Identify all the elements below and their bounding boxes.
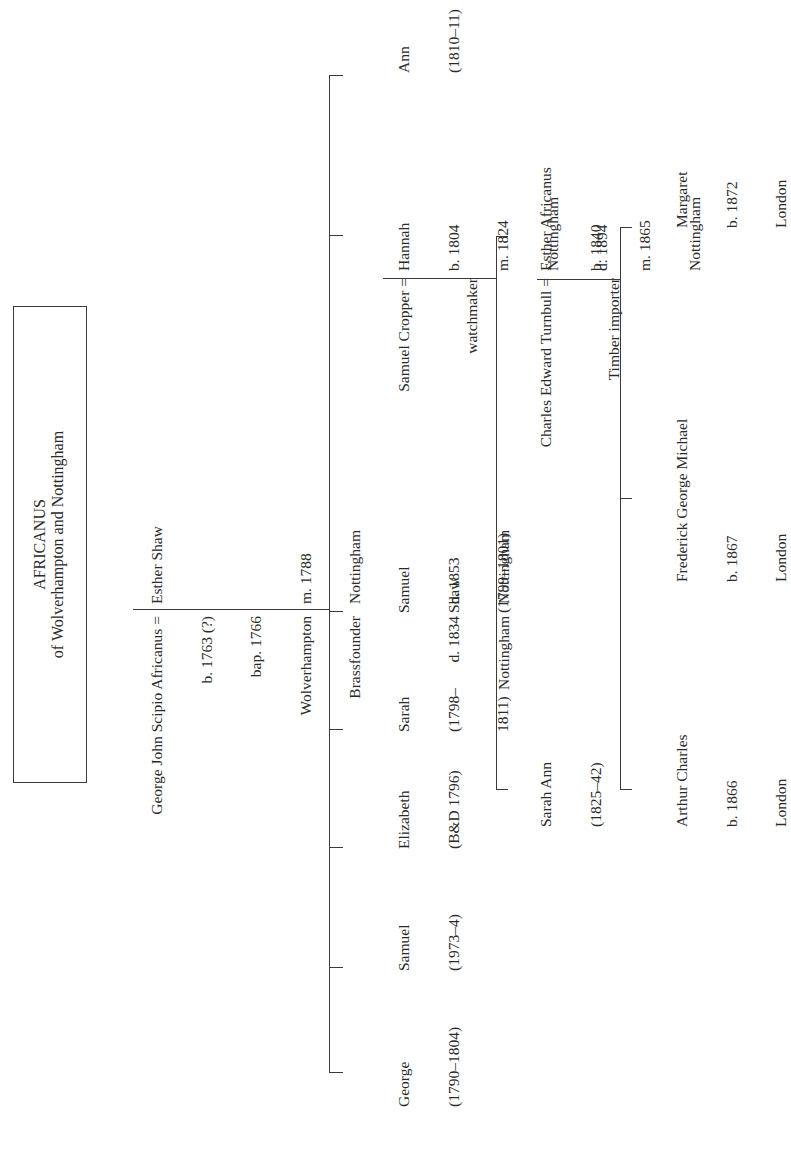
sibling-bar-gen1 xyxy=(329,75,330,1073)
great-grandchild-name: Frederick George Michael xyxy=(674,419,691,582)
husband-detail: d. 1834 xyxy=(446,616,463,910)
child-samuel-shaw: Samuel Shaw (1799–1801) xyxy=(363,533,545,613)
child-tick xyxy=(329,847,343,848)
husband-name: George John Scipio Africanus = xyxy=(149,616,166,910)
child-name: Sarah xyxy=(396,688,413,732)
child-ann: Ann (1810–11) xyxy=(363,9,495,73)
spouse-occupation: watchmaker xyxy=(446,278,481,454)
title-subtitle: of Wolverhampton and Nottingham xyxy=(49,307,67,782)
grandchild-detail: b. 1840 xyxy=(588,167,605,271)
great-grandchild-frederick-george-michael: Frederick George Michael b. 1867 London xyxy=(641,419,791,582)
great-grandchild-detail: London xyxy=(773,171,790,228)
child-elizabeth: Elizabeth (B&D 1796) xyxy=(363,770,495,849)
grandchild-sarah-ann: Sarah Ann (1825–42) xyxy=(505,762,637,827)
child-detail: b. 1804 xyxy=(446,197,463,271)
child-dates: 1811) xyxy=(495,688,512,732)
great-grandchild-margaret: Margaret b. 1872 London xyxy=(641,171,791,228)
title-box: AFRICANUS of Wolverhampton and Nottingha… xyxy=(13,306,87,783)
great-grandchild-detail: London xyxy=(773,419,790,582)
child-tick xyxy=(329,611,343,612)
child-samuel: Samuel (1973–4) xyxy=(363,914,495,971)
wife-detail xyxy=(248,404,265,604)
husband-block: George John Scipio Africanus = b. 1763 (… xyxy=(116,616,545,910)
child-name: Ann xyxy=(396,9,413,73)
sibling-bar-gen3 xyxy=(620,227,621,790)
child-dates: Shaw xyxy=(446,533,463,613)
spouse-name: Charles Edward Turnbull = xyxy=(538,278,555,514)
child-dates: (1799–1801) xyxy=(495,533,512,613)
great-grandchild-name: Arthur Charles xyxy=(674,734,691,827)
child-tick xyxy=(620,227,632,228)
child-name: Samuel xyxy=(396,914,413,971)
child-name: George xyxy=(396,1027,413,1107)
grandchild-name: Esther Africanus xyxy=(538,167,555,271)
child-sarah: Sarah (1798– 1811) xyxy=(363,688,545,732)
great-grandchild-detail: London xyxy=(773,734,790,827)
husband-detail: bap. 1766 xyxy=(248,616,265,910)
child-dates: (1790–1804) xyxy=(446,1027,463,1107)
child-dates: (1798– xyxy=(446,688,463,732)
marriage-line-gen3 xyxy=(537,279,620,280)
wife-detail: Nottingham xyxy=(347,404,364,604)
spouse-charles-edward-turnbull: Charles Edward Turnbull = Timber importe… xyxy=(505,278,655,514)
child-name: Samuel xyxy=(396,533,413,613)
husband-detail xyxy=(397,616,414,910)
child-tick xyxy=(329,75,343,76)
great-grandchild-detail: b. 1867 xyxy=(724,419,741,582)
child-tick xyxy=(329,1072,343,1073)
great-grandchild-arthur-charles: Arthur Charles b. 1866 London xyxy=(641,734,791,827)
child-dates: (1810–11) xyxy=(446,9,463,73)
child-george: George (1790–1804) xyxy=(363,1027,495,1107)
husband-detail: b. 1763 (?) xyxy=(199,616,216,910)
child-dates: (B&D 1796) xyxy=(446,770,463,849)
child-name: Elizabeth xyxy=(396,770,413,849)
great-grandchild-detail: b. 1872 xyxy=(724,171,741,228)
spouse-samuel-cropper: Samuel Cropper = watchmaker xyxy=(363,278,513,454)
wife-detail xyxy=(199,404,216,604)
great-grandchild-name: Margaret xyxy=(674,171,691,228)
spouse-name: Samuel Cropper = xyxy=(396,278,413,454)
wife-detail: m. 1788 xyxy=(298,404,315,604)
husband-detail: Wolverhampton xyxy=(298,616,315,910)
spouse-occupation: Timber importer xyxy=(588,278,623,514)
child-tick xyxy=(620,498,632,499)
child-tick xyxy=(329,967,343,968)
title-name: AFRICANUS xyxy=(31,307,49,782)
child-name: Hannah xyxy=(396,197,413,271)
marriage-line-gen1 xyxy=(133,609,329,610)
marriage-line-gen2 xyxy=(383,278,496,279)
grandchild-name: Sarah Ann xyxy=(538,762,555,827)
grandchild-dates: (1825–42) xyxy=(588,762,605,827)
wife-name: Esther Shaw xyxy=(149,404,166,604)
child-tick xyxy=(329,235,343,236)
child-tick xyxy=(329,729,343,730)
child-dates: (1973–4) xyxy=(446,914,463,971)
husband-detail: Brassfounder xyxy=(347,616,364,910)
child-tick xyxy=(620,789,632,790)
sibling-bar-gen2 xyxy=(496,236,497,790)
great-grandchild-detail: b. 1866 xyxy=(724,734,741,827)
